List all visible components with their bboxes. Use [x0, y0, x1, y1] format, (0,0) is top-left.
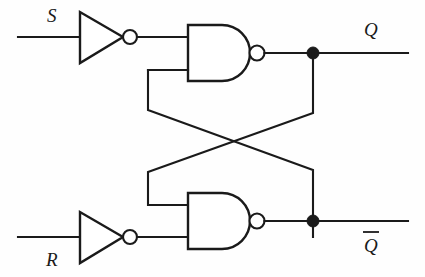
label-reset-input: R	[45, 249, 58, 270]
inverter-reset-triangle	[80, 212, 123, 263]
circuit-schematic-canvas: S R Q Q	[0, 0, 425, 277]
inverter-set-triangle	[80, 12, 123, 63]
junction-dot-q-not	[307, 215, 319, 227]
nand-gate-q-bubble-icon	[250, 46, 265, 61]
circuit-diagram: S R Q Q	[0, 0, 425, 277]
nand-gate-q-not-bubble-icon	[250, 214, 265, 229]
label-q-output: Q	[364, 19, 378, 40]
nand-gate-q-not-body	[188, 193, 250, 249]
label-set-input: S	[47, 5, 57, 26]
inverter-reset-bubble-icon	[123, 230, 137, 244]
nand-gate-q-body	[188, 25, 250, 81]
label-q-not-output: Q	[364, 235, 378, 256]
inverter-set-bubble-icon	[123, 30, 137, 44]
